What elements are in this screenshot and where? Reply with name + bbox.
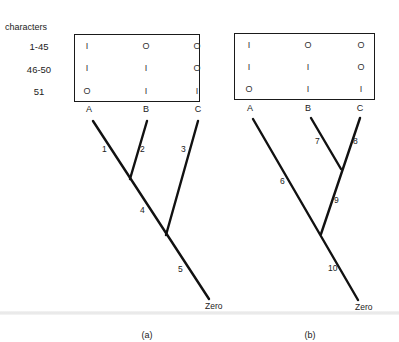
tree-a-root-label: Zero (205, 301, 222, 311)
tree-a-taxon-C: C (192, 104, 204, 114)
tree-b-branch-label-10: 10 (328, 263, 337, 273)
tree-b-branch-label-8: 8 (353, 136, 358, 146)
scan-shadow-divider (0, 311, 399, 315)
tree-b-taxon-A: A (244, 103, 256, 113)
tree-b-taxon-B: B (302, 103, 314, 113)
tree-a-taxon-A: A (83, 104, 95, 114)
tree-a-branch-label-4: 4 (140, 205, 145, 215)
tree-a-branch-label-1: 1 (102, 144, 107, 154)
tree-b-branch-label-9: 9 (334, 195, 339, 205)
tree-a-taxon-B: B (140, 104, 152, 114)
tree-b-branch-label-6: 6 (280, 176, 285, 186)
tree-a-branch-label-5: 5 (178, 264, 183, 274)
cladogram-lines (0, 0, 399, 342)
caption-a: (a) (137, 330, 157, 340)
tree-b-branch-A-to-root (253, 119, 358, 300)
tree-a-branch-label-3: 3 (181, 144, 186, 154)
tree-a-branch-C (166, 121, 198, 235)
tree-b-branch-label-7: 7 (315, 136, 320, 146)
tree-b-taxon-C: C (354, 103, 366, 113)
caption-b: (b) (300, 330, 320, 340)
tree-a-branch-label-2: 2 (140, 144, 145, 154)
